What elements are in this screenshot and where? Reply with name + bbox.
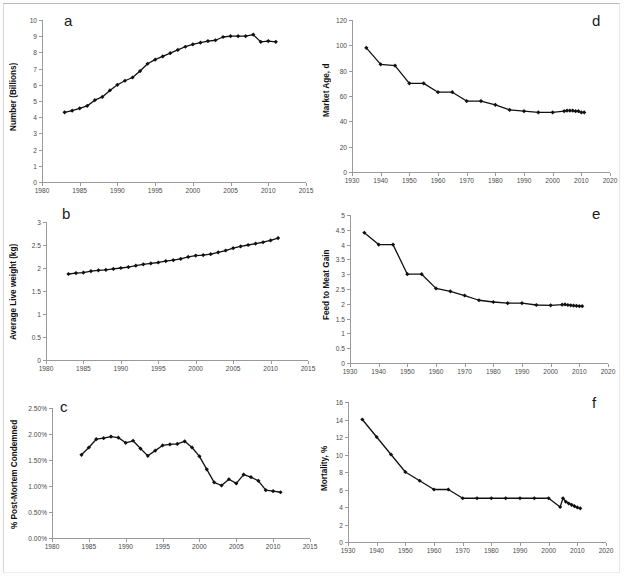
figure-page: aNumber (Billions)0123456789101980198519… [0, 0, 624, 576]
figure-frame [3, 3, 620, 573]
